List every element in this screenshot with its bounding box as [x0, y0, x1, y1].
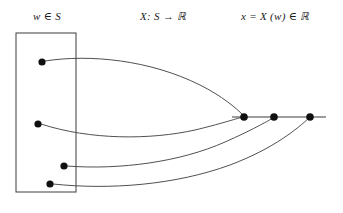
- sample-point: [60, 162, 67, 169]
- real-point: [306, 113, 314, 121]
- mapping-curve: [45, 58, 243, 115]
- sample-point: [34, 120, 41, 127]
- mapping-curve-group: [41, 58, 309, 186]
- random-variable-diagram: [0, 0, 343, 213]
- mapping-curve: [41, 117, 243, 137]
- mapping-curve: [53, 118, 309, 186]
- sample-space-box: [16, 33, 76, 192]
- sample-point: [46, 180, 53, 187]
- real-point: [240, 113, 248, 121]
- sample-point-group: [34, 58, 67, 187]
- real-point: [270, 113, 278, 121]
- sample-point: [38, 58, 45, 65]
- figure-canvas: w ∈ S X: S → ℝ x = X (w) ∈ ℝ: [0, 0, 343, 213]
